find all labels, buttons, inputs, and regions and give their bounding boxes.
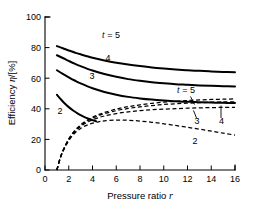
y-axis-title: Efficiency η/[%]	[6, 61, 17, 125]
y-axis-ticks	[45, 17, 50, 170]
curve-t2-dashed	[57, 120, 235, 170]
x-ticklabel-14: 14	[206, 174, 216, 184]
label-solid-t5: t = 5	[102, 30, 120, 40]
label-solid-t5-text: = 5	[105, 30, 120, 40]
x-ticklabel-10: 10	[159, 174, 169, 184]
x-ticklabel-12: 12	[182, 174, 192, 184]
x-ticklabel-8: 8	[137, 174, 142, 184]
y-ticklabel-20: 20	[31, 135, 41, 145]
axes-frame	[45, 17, 235, 170]
curve-t2-solid	[57, 95, 96, 121]
y-ticklabel-80: 80	[31, 43, 41, 53]
y-ticklabel-40: 40	[31, 104, 41, 114]
x-ticklabel-0: 0	[42, 174, 47, 184]
y-ticklabel-60: 60	[31, 74, 41, 84]
curve-t4-dashed	[57, 102, 235, 170]
curve-annotations: t = 5 4 3 2 t = 5 3 4 2	[57, 30, 224, 147]
label-dashed-3: 3	[194, 116, 199, 126]
x-ticklabel-6: 6	[114, 174, 119, 184]
label-solid-4: 4	[105, 53, 110, 63]
x-ticklabel-16: 16	[230, 174, 240, 184]
label-dashed-t5-text: = 5	[180, 85, 195, 95]
x-axis-title-symbol: r	[169, 190, 173, 201]
x-axis-ticks	[45, 166, 235, 171]
label-solid-2: 2	[57, 106, 62, 116]
x-axis-tick-labels: 0 2 4 6 8 10 12 14 16	[42, 174, 240, 184]
chart-figure: 0 20 40 60 80 100 0 2 4 6 8 10 12	[0, 0, 253, 211]
chart-plot-area: 0 20 40 60 80 100 0 2 4 6 8 10 12	[0, 0, 253, 211]
label-dashed-t5: t = 5	[177, 85, 195, 95]
curve-t5-dashed	[57, 99, 235, 170]
y-axis-title-units: /[%]	[6, 61, 17, 77]
label-solid-3: 3	[89, 71, 94, 81]
y-axis-title-main: Efficiency	[6, 82, 17, 125]
label-dashed-2: 2	[192, 136, 197, 146]
y-ticklabel-100: 100	[26, 12, 41, 22]
label-dashed-4: 4	[219, 116, 224, 126]
x-axis-title: Pressure ratio r	[107, 190, 173, 201]
y-axis-tick-labels: 0 20 40 60 80 100	[26, 12, 41, 175]
y-ticklabel-0: 0	[36, 165, 41, 175]
x-ticklabel-4: 4	[90, 174, 95, 184]
x-axis-title-main: Pressure ratio	[107, 190, 169, 201]
x-ticklabel-2: 2	[66, 174, 71, 184]
series-curves	[57, 46, 235, 170]
